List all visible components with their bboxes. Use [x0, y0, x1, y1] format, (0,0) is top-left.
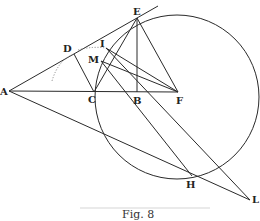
- line-EC: [94, 18, 137, 92]
- line-MF: [101, 61, 178, 92]
- label-H: H: [186, 179, 195, 190]
- label-C: C: [88, 94, 96, 105]
- label-L: L: [252, 194, 259, 205]
- label-E: E: [133, 6, 141, 17]
- line-AL: [9, 91, 250, 200]
- label-B: B: [133, 95, 141, 106]
- label-A: A: [0, 86, 8, 97]
- line-MH: [101, 61, 192, 176]
- label-M: M: [88, 54, 99, 65]
- geometry-figure: A D I M E C B F H L Fig. 8: [0, 0, 260, 221]
- line-EF: [137, 18, 178, 92]
- figure-caption: Fig. 8: [122, 208, 154, 221]
- line-IL: [106, 48, 250, 200]
- label-I: I: [100, 38, 105, 49]
- dotted-arc: [52, 54, 74, 81]
- label-D: D: [63, 43, 72, 54]
- label-F: F: [176, 95, 183, 106]
